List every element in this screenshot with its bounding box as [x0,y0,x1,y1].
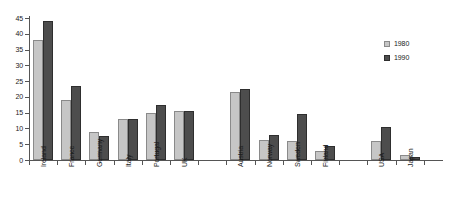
legend-label-1990: 1990 [394,54,409,61]
y-tick-label-25: 25 [0,78,23,85]
x-label-usa: USA [378,153,385,167]
x-tick-7 [226,161,227,165]
x-label-portugal: Portugal [153,142,160,167]
y-tick-label-5: 5 [0,141,23,148]
x-label-france: France [68,146,75,167]
x-tick-9 [283,161,284,165]
plot-area [30,18,442,160]
x-label-austria: Austria [237,146,244,167]
x-tick-14 [424,161,425,165]
legend-swatch-1990-icon [384,55,390,61]
bar-ireland-1990 [43,21,53,160]
bar-uk-1990 [184,111,194,160]
legend-swatch-1980-icon [384,41,390,47]
legend-label-1980: 1980 [394,40,409,47]
bar-ireland-1980 [33,40,43,160]
y-tick-label-0: 0 [0,157,23,164]
y-tick-label-30: 30 [0,62,23,69]
x-label-ireland: Ireland [40,146,47,167]
legend-item-1980: 1980 [384,38,409,49]
y-tick-label-40: 40 [0,30,23,37]
x-tick-13 [396,161,397,165]
x-tick-8 [255,161,256,165]
y-tick-label-35: 35 [0,46,23,53]
x-tick-0 [29,161,30,165]
x-tick-1 [57,161,58,165]
x-tick-3 [114,161,115,165]
x-label-italy: Italy [125,155,132,167]
bar-uk-1980 [174,111,184,160]
x-tick-10 [311,161,312,165]
x-label-germany: Germany [96,139,103,167]
x-tick-2 [85,161,86,165]
legend-item-1990: 1990 [384,52,409,63]
x-label-sweden: Sweden [294,142,301,167]
chart-legend: 1980 1990 [384,38,409,66]
x-label-japan: Japan [407,148,414,167]
bar-chart: 051015202530354045 IrelandFranceGermanyI… [0,0,449,208]
y-tick-label-45: 45 [0,15,23,22]
x-label-uk: UK [181,157,188,167]
x-label-norway: Norway [266,144,273,167]
x-tick-5 [170,161,171,165]
x-label-finland: Finland [322,145,329,167]
y-tick-label-20: 20 [0,93,23,100]
y-tick-label-10: 10 [0,125,23,132]
y-tick-label-15: 15 [0,109,23,116]
x-tick-12 [367,161,368,165]
x-tick-4 [142,161,143,165]
x-tick-11 [339,161,340,165]
x-tick-6 [198,161,199,165]
